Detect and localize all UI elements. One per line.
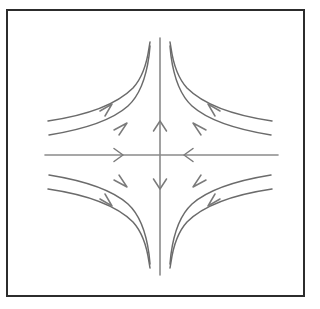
trajectory-lower-left-outer [48, 189, 150, 268]
arrow-lower-right-inner [193, 175, 206, 187]
figure-page: Saddle point phase portrait: hyperbolic … [0, 0, 320, 309]
axes-group [45, 38, 278, 275]
trajectory-upper-right-inner [170, 42, 272, 121]
trajectory-lower-left-inner [49, 175, 150, 264]
trajectory-upper-left-outer [49, 46, 150, 135]
trajectory-lower-right-outer [170, 175, 271, 264]
trajectory-upper-right-outer [170, 46, 271, 135]
arrow-upper-left-inner [114, 123, 127, 135]
arrow-lower-left-outer [114, 175, 127, 187]
trajectory-lower-right-inner [170, 189, 272, 268]
arrow-upper-right-inner [193, 123, 206, 135]
phase-portrait-plot [0, 0, 320, 309]
trajectory-upper-left-inner [48, 42, 150, 121]
